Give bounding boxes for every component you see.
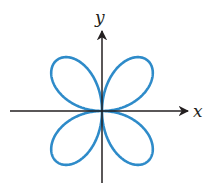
y-axis-label: y [94, 7, 105, 27]
x-axis-label: x [193, 101, 203, 121]
rose-curve-diagram: x y [0, 0, 211, 183]
